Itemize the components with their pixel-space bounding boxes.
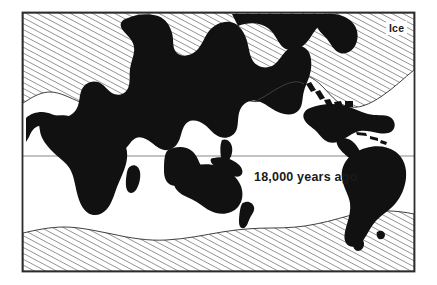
landmass-falklands <box>377 231 385 240</box>
time-period-label: 18,000 years ago <box>254 170 357 184</box>
ice-age-world-map <box>0 0 437 285</box>
ice-sheet-label: Ice <box>386 21 407 35</box>
